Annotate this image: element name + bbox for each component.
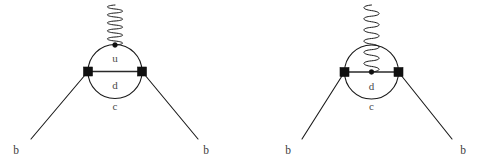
diagram-canvas: u d c b b d c b b <box>0 0 490 163</box>
left-outgoing-b-label: b <box>203 144 209 156</box>
right-gluon-vertex-dot <box>369 70 374 75</box>
left-gluon-vertex-dot <box>113 43 118 48</box>
gluon-icon <box>364 5 379 72</box>
left-incoming-b-line <box>31 72 88 140</box>
right-diagram-right-weak-vertex-square <box>394 68 403 77</box>
right-outgoing-b-line <box>399 72 453 139</box>
right-weak-vertex-square <box>138 67 147 76</box>
right-incoming-b-label: b <box>285 144 291 156</box>
gluon-icon <box>107 5 122 45</box>
right-diagram-left-weak-vertex-square <box>340 68 349 77</box>
left-outgoing-b-line <box>142 72 198 140</box>
right-loop-lower-label: d <box>369 80 375 92</box>
right-diagram: d c b b <box>285 5 466 156</box>
left-loop-upper-label: u <box>112 52 118 64</box>
left-loop-outer-label: c <box>113 100 118 112</box>
right-loop-outer-label: c <box>369 100 374 112</box>
left-diagram: u d c b b <box>13 5 209 156</box>
left-weak-vertex-square <box>84 67 93 76</box>
right-outgoing-b-label: b <box>460 144 466 156</box>
feynman-diagram-figure: u d c b b d c b b <box>0 0 490 163</box>
left-incoming-b-label: b <box>13 144 19 156</box>
left-loop-lower-label: d <box>112 79 118 91</box>
right-incoming-b-line <box>302 72 345 139</box>
